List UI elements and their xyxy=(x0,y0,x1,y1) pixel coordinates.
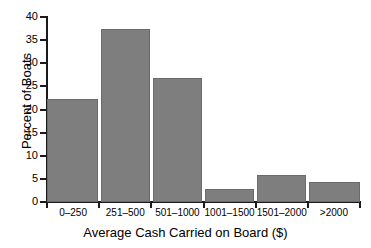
bar xyxy=(47,99,98,202)
y-tick-label: 25 xyxy=(14,80,38,91)
y-tick-label: 30 xyxy=(14,57,38,68)
x-tick-label: 1001–1500 xyxy=(204,207,256,219)
bar xyxy=(153,78,202,202)
y-tick-label: 35 xyxy=(14,34,38,45)
x-tick-label: 251–500 xyxy=(99,207,151,219)
y-tick-mark xyxy=(40,132,47,134)
y-tick-label: 20 xyxy=(14,104,38,115)
y-tick-label: 5 xyxy=(14,173,38,184)
y-tick-label: 15 xyxy=(14,127,38,138)
bar xyxy=(205,189,254,202)
x-tick-label: 0–250 xyxy=(47,207,99,219)
y-tick-mark xyxy=(40,85,47,87)
plot-area xyxy=(47,17,360,202)
y-tick-mark xyxy=(40,109,47,111)
x-tick-label: 1501–2000 xyxy=(256,207,308,219)
bar xyxy=(257,175,306,202)
y-tick-mark xyxy=(40,178,47,180)
y-tick-mark xyxy=(40,155,47,157)
y-tick-label: 10 xyxy=(14,150,38,161)
x-tick-label: 501–1000 xyxy=(151,207,203,219)
histogram-figure: Percent of Boats 0510152025303540 0–2502… xyxy=(0,0,371,248)
y-tick-mark xyxy=(40,16,47,18)
y-tick-label: 0 xyxy=(14,196,38,207)
bar xyxy=(101,29,150,202)
y-tick-label: 40 xyxy=(14,11,38,22)
x-axis-title: Average Cash Carried on Board ($) xyxy=(0,225,371,240)
bar xyxy=(309,182,360,202)
y-tick-mark xyxy=(40,62,47,64)
x-tick-label: >2000 xyxy=(308,207,360,219)
y-tick-mark xyxy=(40,39,47,41)
